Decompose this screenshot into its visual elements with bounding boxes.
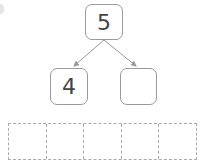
part-box-right[interactable] (120, 68, 157, 105)
frame-cell[interactable] (9, 124, 47, 159)
arrow-to-right-part (104, 40, 136, 66)
part-box-left: 4 (50, 68, 88, 105)
frame-cell[interactable] (122, 124, 160, 159)
frame-cell[interactable] (47, 124, 85, 159)
part-value-left: 4 (62, 74, 76, 99)
five-frame (8, 123, 197, 160)
frame-cell[interactable] (159, 124, 196, 159)
frame-cell[interactable] (84, 124, 122, 159)
whole-value: 5 (97, 10, 111, 35)
arrow-to-left-part (74, 40, 104, 66)
whole-box: 5 (85, 4, 123, 40)
